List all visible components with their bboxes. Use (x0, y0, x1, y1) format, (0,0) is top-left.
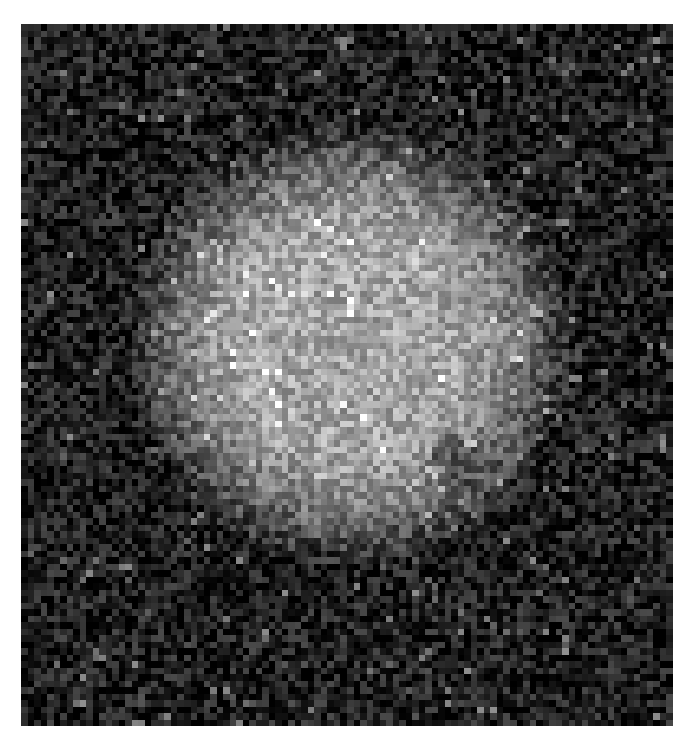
micrograph-image (21, 24, 673, 726)
micrograph-canvas (21, 24, 673, 726)
